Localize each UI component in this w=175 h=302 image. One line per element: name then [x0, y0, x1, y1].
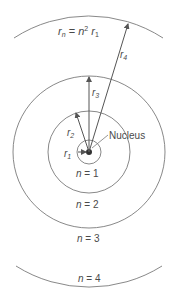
orbit-label-n1: n = 1: [76, 168, 99, 179]
orbit-label-n3: n = 3: [77, 233, 100, 244]
label-r3: r3: [92, 87, 99, 99]
formula-label: rn = n2 r1: [58, 25, 99, 38]
radius-r2-arrow: [76, 113, 89, 152]
nucleus-label: Nucleus: [109, 130, 145, 141]
label-r4: r4: [120, 49, 127, 61]
bohr-orbit-diagram: rn = n2 r1 r1 r2 r3 r4 Nucleus n = 1 n =…: [0, 0, 175, 302]
orbit-label-n4: n = 4: [78, 273, 101, 284]
label-r1: r1: [64, 148, 71, 160]
label-r2: r2: [67, 127, 74, 139]
orbit-label-n2: n = 2: [76, 199, 99, 210]
